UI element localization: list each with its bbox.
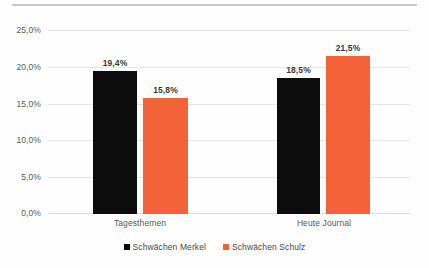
legend-label-merkel: Schwächen Merkel — [133, 242, 206, 252]
y-axis-label-5: 5,0% — [21, 172, 41, 182]
bar-tagesthemen-schulz[interactable]: 15,8% — [143, 98, 188, 214]
x-axis-label-tagesthemen: Tagesthemen — [114, 218, 166, 228]
bar-tagesthemen-merkel[interactable]: 19,4% — [93, 71, 137, 214]
bar-value-heute-journal-schulz: 21,5% — [336, 43, 361, 53]
x-axis-label-heute-journal: Heute Journal — [297, 218, 351, 228]
top-divider-rule — [12, 4, 417, 6]
bar-value-tagesthemen-merkel: 19,4% — [103, 58, 128, 68]
y-axis-label-25: 25,0% — [16, 25, 41, 35]
legend-swatch-icon-schulz — [223, 244, 229, 250]
legend-item-schulz[interactable]: Schwächen Schulz — [223, 242, 305, 252]
legend-item-merkel[interactable]: Schwächen Merkel — [124, 242, 206, 252]
y-axis-label-15: 15,0% — [16, 99, 41, 109]
chart-legend: Schwächen Merkel Schwächen Schulz — [0, 242, 429, 252]
bar-value-heute-journal-merkel: 18,5% — [286, 65, 311, 75]
plot-area: 25,0% 20,0% 15,0% 10,0% 5,0% 0,0% 19,4% … — [48, 30, 410, 214]
y-axis-label-20: 20,0% — [16, 62, 41, 72]
legend-label-schulz: Schwächen Schulz — [232, 242, 305, 252]
bar-value-tagesthemen-schulz: 15,8% — [153, 85, 178, 95]
bar-heute-journal-schulz[interactable]: 21,5% — [326, 56, 370, 214]
bar-chart: 25,0% 20,0% 15,0% 10,0% 5,0% 0,0% 19,4% … — [0, 0, 429, 268]
bar-heute-journal-merkel[interactable]: 18,5% — [277, 78, 320, 214]
x-axis-labels: Tagesthemen Heute Journal — [48, 218, 410, 234]
y-axis-label-10: 10,0% — [16, 135, 41, 145]
bars-layer: 19,4% 15,8% 18,5% 21,5% — [48, 30, 410, 214]
y-axis-label-0: 0,0% — [21, 208, 41, 218]
legend-swatch-icon-merkel — [124, 244, 130, 250]
